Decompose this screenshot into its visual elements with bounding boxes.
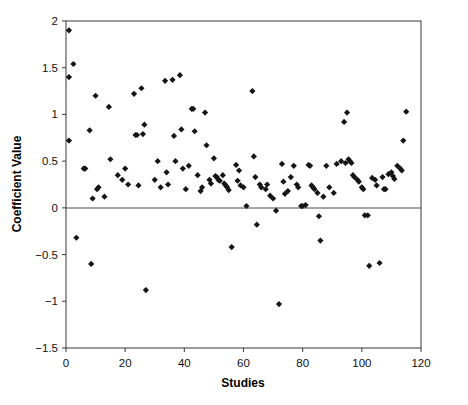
data-point: [73, 235, 79, 241]
data-point: [135, 182, 141, 188]
data-point: [403, 109, 409, 115]
data-point: [276, 301, 282, 307]
data-point: [316, 213, 322, 219]
x-tick-label: 120: [411, 357, 430, 369]
data-point: [280, 179, 286, 185]
data-point: [138, 85, 144, 91]
data-point: [140, 131, 146, 137]
y-axis-title: Coefficient Value: [10, 135, 24, 232]
data-point: [323, 163, 329, 169]
scatter-plot-figure: 21.510.50−0.5−1−1.5 020406080100120 Stud…: [0, 0, 468, 405]
y-tick-label: 1.5: [42, 62, 58, 74]
data-point: [326, 184, 332, 190]
data-point: [162, 78, 168, 84]
data-point: [180, 166, 186, 172]
data-point: [115, 172, 121, 178]
scatter-plot-svg: 21.510.50−0.5−1−1.5 020406080100120 Stud…: [0, 0, 468, 405]
data-point: [125, 181, 131, 187]
data-point: [122, 166, 128, 172]
data-point: [66, 74, 72, 80]
data-point: [366, 263, 372, 269]
y-tick-label: −1.5: [35, 342, 58, 354]
y-tick-label: 2: [52, 15, 58, 27]
data-point: [400, 137, 406, 143]
y-tick-label: 0: [52, 202, 58, 214]
data-point: [186, 163, 192, 169]
data-point: [172, 158, 178, 164]
data-points-group: [66, 27, 409, 307]
data-point: [101, 194, 107, 200]
data-point: [165, 181, 171, 187]
x-tick-label: 60: [237, 357, 250, 369]
data-point: [178, 126, 184, 132]
data-point: [90, 195, 96, 201]
data-point: [291, 163, 297, 169]
data-point: [169, 77, 175, 83]
data-point: [233, 162, 239, 168]
data-point: [264, 181, 270, 187]
data-point: [331, 190, 337, 196]
data-point: [320, 194, 326, 200]
data-point: [279, 161, 285, 167]
data-point: [234, 178, 240, 184]
data-point: [183, 186, 189, 192]
data-point: [254, 222, 260, 228]
data-point: [288, 174, 294, 180]
data-point: [374, 182, 380, 188]
data-point: [106, 104, 112, 110]
data-point: [131, 91, 137, 97]
x-tick-label: 0: [63, 357, 69, 369]
data-point: [119, 177, 125, 183]
data-point: [87, 127, 93, 133]
data-point: [344, 109, 350, 115]
x-axis-ticks: 020406080100120: [63, 348, 431, 369]
y-tick-label: 0.5: [42, 155, 58, 167]
data-point: [141, 122, 147, 128]
data-point: [202, 109, 208, 115]
data-point: [66, 27, 72, 33]
data-point: [317, 237, 323, 243]
data-point: [220, 172, 226, 178]
data-point: [107, 156, 113, 162]
x-tick-label: 40: [178, 357, 191, 369]
data-point: [252, 174, 258, 180]
data-point: [152, 177, 158, 183]
y-tick-label: 1: [52, 108, 58, 120]
data-point: [251, 153, 257, 159]
data-point: [229, 244, 235, 250]
y-axis-ticks: 21.510.50−0.5−1−1.5: [35, 15, 66, 354]
data-point: [211, 155, 217, 161]
data-point: [66, 137, 72, 143]
data-point: [341, 119, 347, 125]
data-point: [70, 61, 76, 67]
y-tick-label: −1: [45, 295, 58, 307]
data-point: [379, 174, 385, 180]
data-point: [171, 133, 177, 139]
data-point: [92, 93, 98, 99]
data-point: [177, 72, 183, 78]
data-point: [155, 158, 161, 164]
x-tick-label: 100: [352, 357, 371, 369]
data-point: [163, 169, 169, 175]
x-axis-title: Studies: [221, 376, 265, 390]
x-tick-label: 20: [119, 357, 132, 369]
y-tick-label: −0.5: [35, 249, 58, 261]
data-point: [203, 142, 209, 148]
data-point: [236, 167, 242, 173]
data-point: [376, 260, 382, 266]
data-point: [158, 184, 164, 190]
data-point: [195, 172, 201, 178]
data-point: [88, 261, 94, 267]
data-point: [143, 287, 149, 293]
x-tick-label: 80: [296, 357, 309, 369]
data-point: [192, 128, 198, 134]
data-point: [249, 88, 255, 94]
